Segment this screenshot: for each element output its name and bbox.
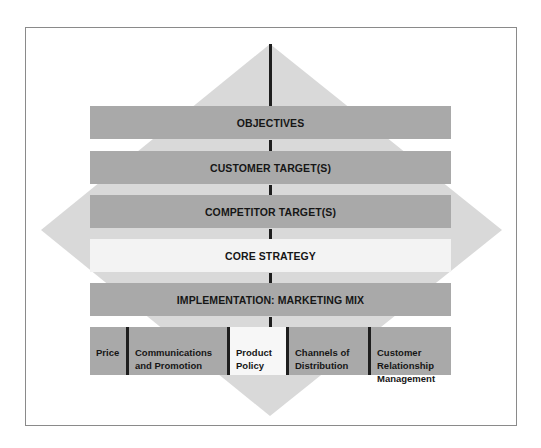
layer-customer-targets: CUSTOMER TARGET(S) [90, 151, 451, 184]
mix-cell-product-policy: Product Policy [230, 327, 286, 375]
mix-cell-communications: Communications and Promotion [129, 327, 227, 375]
mix-label: Channels of Distribution [295, 347, 349, 371]
connector-line [269, 229, 272, 239]
layer-label: CORE STRATEGY [225, 250, 316, 262]
connector-line [269, 273, 272, 283]
layer-label: OBJECTIVES [237, 117, 305, 129]
mix-cell-channels: Channels of Distribution [289, 327, 368, 375]
layer-label: CUSTOMER TARGET(S) [210, 162, 331, 174]
connector-line [269, 317, 272, 327]
marketing-mix-row: Price Communications and Promotion Produ… [90, 327, 451, 375]
layer-objectives: OBJECTIVES [90, 106, 451, 139]
mix-cell-price: Price [90, 327, 126, 375]
mix-label: Communications and Promotion [135, 347, 212, 371]
mix-label: Customer Relationship Management [377, 347, 435, 384]
layer-core-strategy: CORE STRATEGY [90, 239, 451, 272]
connector-line [269, 140, 272, 151]
layer-competitor-targets: COMPETITOR TARGET(S) [90, 195, 451, 228]
layer-implementation: IMPLEMENTATION: MARKETING MIX [90, 283, 451, 316]
layer-label: COMPETITOR TARGET(S) [205, 206, 336, 218]
layer-label: IMPLEMENTATION: MARKETING MIX [177, 294, 364, 306]
mix-cell-crm: Customer Relationship Management [371, 327, 451, 375]
mix-label: Price [96, 347, 119, 358]
mix-label: Product Policy [236, 347, 272, 371]
connector-line [269, 185, 272, 195]
connector-line [269, 44, 272, 106]
